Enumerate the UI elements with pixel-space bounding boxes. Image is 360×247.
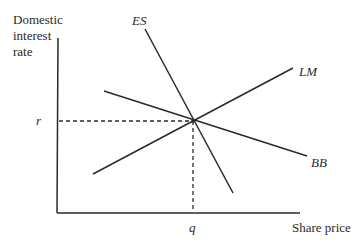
y-axis-label-line-3: rate bbox=[13, 44, 33, 59]
equilibrium-point bbox=[191, 119, 195, 123]
y-axis-label-line-2: interest bbox=[13, 28, 52, 43]
es-curve bbox=[145, 29, 233, 193]
lm-label: LM bbox=[298, 64, 318, 79]
r-label: r bbox=[36, 113, 42, 128]
x-axis-label: Share price bbox=[292, 220, 351, 235]
q-label: q bbox=[189, 220, 196, 235]
y-axis-label-line-1: Domestic bbox=[13, 12, 63, 27]
bb-label: BB bbox=[311, 155, 327, 170]
y-axis bbox=[57, 38, 58, 213]
bb-curve bbox=[104, 91, 307, 156]
isbb-diagram: Domestic interest rate Share price ES LM… bbox=[0, 0, 360, 247]
es-label: ES bbox=[131, 13, 147, 28]
